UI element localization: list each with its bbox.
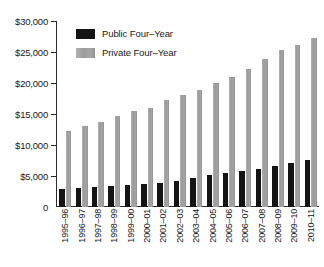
bar-private-four-year — [148, 108, 154, 208]
bar-private-four-year — [262, 59, 268, 207]
y-tick-label: $25,000 — [15, 47, 48, 58]
bar-public-four-year — [239, 171, 245, 207]
y-tick-mark — [51, 52, 56, 53]
bar-private-four-year — [66, 131, 72, 207]
bar-private-four-year — [180, 95, 186, 207]
bar-private-four-year — [164, 100, 170, 207]
x-tick-label: 2006–07 — [240, 209, 250, 243]
y-tick-label: $5,000 — [20, 171, 48, 182]
y-tick-label: $10,000 — [15, 140, 48, 151]
bar-public-four-year — [157, 183, 163, 207]
bar-group — [288, 21, 300, 207]
bar-group — [207, 21, 219, 207]
bar-public-four-year — [59, 189, 65, 207]
bar-public-four-year — [223, 173, 229, 207]
bar-private-four-year — [311, 38, 317, 207]
bar-group — [239, 21, 251, 207]
y-axis-tick-labels: $30,000$25,000$20,000$15,000$10,000$5,00… — [0, 14, 52, 214]
y-tick-label: $15,000 — [15, 109, 48, 120]
bar-private-four-year — [115, 116, 121, 207]
bar-group — [305, 21, 317, 207]
x-axis-tick-labels: 1995–961996–971997–981998–991999–002000–… — [57, 209, 319, 267]
bar-public-four-year — [92, 187, 98, 207]
x-tick-label: 1996–97 — [77, 209, 87, 243]
legend-item-label: Private Four–Year — [102, 47, 177, 58]
y-tick-mark — [51, 21, 56, 22]
bar-group — [223, 21, 235, 207]
bar-private-four-year — [131, 111, 137, 207]
y-tick-label: $30,000 — [15, 16, 48, 27]
bar-private-four-year — [98, 122, 104, 207]
legend-item-private: Private Four–Year — [76, 45, 206, 60]
x-tick-label: 2000–01 — [142, 209, 152, 243]
x-tick-label: 2001–02 — [158, 209, 168, 243]
bar-private-four-year — [295, 45, 301, 207]
bar-group — [59, 21, 71, 207]
x-tick-label: 2003–04 — [191, 209, 201, 243]
y-tick-mark — [51, 176, 56, 177]
x-tick-label: 2007–08 — [257, 209, 267, 243]
x-tick-label: 1999–00 — [126, 209, 136, 243]
legend-item-public: Public Four–Year — [76, 26, 206, 41]
gray-square-swatch-icon — [76, 48, 95, 58]
y-tick-mark — [51, 145, 56, 146]
y-tick-mark — [51, 114, 56, 115]
x-tick-label: 2005–06 — [224, 209, 234, 243]
x-tick-label: 1997–98 — [93, 209, 103, 243]
chart-legend: Public Four–Year Private Four–Year — [76, 26, 206, 64]
x-tick-label: 2008–09 — [273, 209, 283, 243]
bar-public-four-year — [141, 184, 147, 207]
bar-group — [272, 21, 284, 207]
bar-private-four-year — [82, 126, 88, 207]
bar-public-four-year — [76, 188, 82, 207]
bar-public-four-year — [108, 186, 114, 207]
legend-item-label: Public Four–Year — [102, 28, 173, 39]
bar-private-four-year — [279, 50, 285, 207]
bar-private-four-year — [197, 90, 203, 207]
bar-private-four-year — [246, 69, 252, 207]
bar-public-four-year — [288, 163, 294, 207]
y-tick-label: 0 — [43, 202, 48, 213]
bar-public-four-year — [256, 169, 262, 207]
x-tick-label: 2004–05 — [208, 209, 218, 243]
bar-chart: $30,000$25,000$20,000$15,000$10,000$5,00… — [0, 0, 324, 267]
y-tick-mark — [51, 83, 56, 84]
bar-public-four-year — [305, 160, 311, 207]
bar-public-four-year — [125, 185, 131, 207]
bar-public-four-year — [190, 178, 196, 207]
bar-public-four-year — [174, 181, 180, 207]
y-tick-label: $20,000 — [15, 78, 48, 89]
bar-public-four-year — [207, 175, 213, 207]
bar-private-four-year — [229, 77, 235, 207]
x-tick-label: 2010–11 — [306, 209, 316, 242]
x-tick-label: 1998–99 — [109, 209, 119, 243]
black-square-swatch-icon — [76, 29, 95, 39]
x-tick-label: 2002–03 — [175, 209, 185, 243]
x-tick-label: 1995–96 — [60, 209, 70, 243]
bar-private-four-year — [213, 83, 219, 207]
x-tick-label: 2009–10 — [289, 209, 299, 243]
bar-public-four-year — [272, 166, 278, 207]
bar-group — [256, 21, 268, 207]
